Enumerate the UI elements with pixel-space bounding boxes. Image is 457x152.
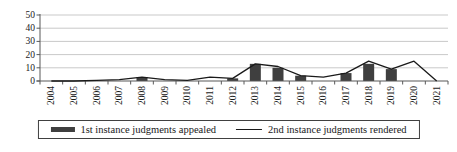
- x-tick-label-2014: 2014: [273, 86, 283, 105]
- x-tick-label-2016: 2016: [318, 86, 328, 105]
- line-series: [51, 61, 436, 81]
- y-tick-label-40: 40: [9, 23, 35, 33]
- x-tick-label-2017: 2017: [341, 86, 351, 105]
- line-swatch-icon: [236, 129, 262, 130]
- x-tick-label-2019: 2019: [386, 86, 396, 105]
- x-tick-label-2020: 2020: [409, 86, 419, 105]
- legend-label-appealed: 1st instance judgments appealed: [80, 124, 216, 135]
- x-tick-label-2006: 2006: [92, 86, 102, 105]
- legend-label-rendered: 2nd instance judgments rendered: [268, 124, 407, 135]
- bar-swatch-icon: [50, 127, 74, 132]
- y-tick-label-20: 20: [9, 50, 35, 60]
- x-tick-label-2021: 2021: [432, 86, 442, 105]
- x-tick-label-2004: 2004: [46, 86, 56, 105]
- y-tick-label-0: 0: [9, 76, 35, 86]
- y-tick-label-50: 50: [9, 10, 35, 20]
- bar-2018: [363, 64, 374, 81]
- bar-2019: [386, 69, 397, 81]
- x-tick-label-2018: 2018: [364, 86, 374, 105]
- x-tick-label-2010: 2010: [182, 86, 192, 105]
- legend-item-appealed: 1st instance judgments appealed: [50, 124, 216, 135]
- bar-2014: [273, 68, 284, 81]
- legend: 1st instance judgments appealed 2nd inst…: [37, 120, 419, 139]
- x-tick-label-2007: 2007: [114, 86, 124, 105]
- x-tick-label-2005: 2005: [69, 86, 79, 105]
- x-tick-label-2012: 2012: [228, 86, 238, 105]
- y-tick-label-10: 10: [9, 63, 35, 73]
- x-tick-label-2011: 2011: [205, 86, 215, 105]
- y-tick-label-30: 30: [9, 36, 35, 46]
- x-tick-label-2013: 2013: [250, 86, 260, 105]
- x-tick-label-2009: 2009: [160, 86, 170, 105]
- x-tick-label-2008: 2008: [137, 86, 147, 105]
- legend-item-rendered: 2nd instance judgments rendered: [236, 124, 407, 135]
- chart-figure: 01020304050 2004200520062007200820092010…: [0, 0, 457, 152]
- x-tick-label-2015: 2015: [296, 86, 306, 105]
